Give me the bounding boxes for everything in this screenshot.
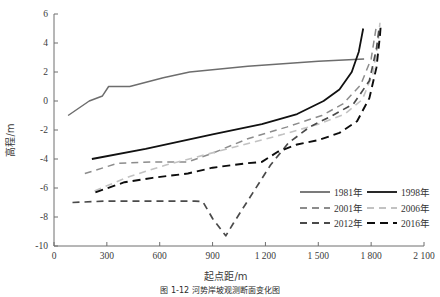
y-tick-label: 0 — [43, 96, 48, 106]
legend-label-1981年: 1981年 — [334, 187, 363, 198]
y-axis-title: 高程/m — [4, 123, 16, 156]
figure-caption: 图 1-12 河势岸坡观测断面变化图 — [0, 279, 440, 297]
x-tick-label: 1 800 — [360, 251, 382, 261]
y-tick-label: 6 — [43, 9, 48, 19]
axes-group — [54, 14, 424, 246]
x-tick-label: 1 200 — [255, 251, 277, 261]
figure-caption-text: 图 1-12 河势岸坡观测断面变化图 — [160, 286, 279, 295]
x-tick-label: 0 — [52, 251, 57, 261]
legend-label-1998年: 1998年 — [401, 187, 430, 198]
x-tick-label: 300 — [100, 251, 115, 261]
legend-label-2001年: 2001年 — [334, 203, 363, 214]
chart-legend: 1981年1998年2001年2006年2012年2016年 — [300, 187, 430, 229]
y-tick-label: 2 — [43, 67, 48, 77]
x-axis-ticks: 03006009001 2001 5001 8002 100 — [52, 242, 435, 261]
y-axis-ticks: -10-8-6-4-20246 — [35, 9, 58, 251]
x-tick-label: 600 — [153, 251, 168, 261]
series-line-1981年 — [68, 59, 364, 116]
y-tick-label: -10 — [35, 241, 48, 251]
y-tick-label: 4 — [43, 38, 48, 48]
series-line-2016年 — [95, 24, 380, 192]
y-tick-label: -4 — [40, 154, 48, 164]
legend-label-2016年: 2016年 — [401, 218, 430, 229]
y-tick-label: -2 — [40, 125, 48, 135]
legend-label-2006年: 2006年 — [401, 203, 430, 214]
legend-label-2012年: 2012年 — [334, 218, 363, 229]
y-tick-label: -6 — [40, 183, 48, 193]
x-tick-label: 2 100 — [413, 251, 435, 261]
x-tick-label: 900 — [205, 251, 220, 261]
y-tick-label: -8 — [40, 212, 48, 222]
x-tick-label: 1 500 — [308, 251, 330, 261]
